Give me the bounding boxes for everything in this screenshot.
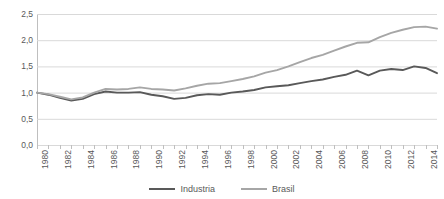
x-axis-tick	[94, 145, 95, 149]
series-canvas	[37, 14, 437, 145]
x-axis-tick-label: 1994	[201, 150, 210, 169]
legend-label: Industria	[180, 185, 215, 194]
legend-line-swatch	[241, 188, 267, 190]
y-axis-tick-label: 1,5	[3, 62, 33, 71]
x-axis-tick-label: 1982	[64, 150, 73, 169]
x-axis-tick	[48, 145, 49, 149]
x-axis-tick	[37, 145, 38, 149]
x-axis-tick	[83, 145, 84, 149]
x-axis-tick	[71, 145, 72, 149]
x-axis-tick-label: 2006	[338, 150, 347, 169]
x-axis-tick	[334, 145, 335, 149]
x-axis-tick	[346, 145, 347, 149]
y-axis-tick-label: 0,5	[3, 115, 33, 124]
x-axis-tick	[254, 145, 255, 149]
series-line-brasil	[37, 27, 437, 100]
x-axis-tick-label: 2014	[430, 150, 439, 169]
x-axis-tick	[243, 145, 244, 149]
x-axis-tick	[186, 145, 187, 149]
chart-title	[0, 0, 444, 2]
legend-item[interactable]: Brasil	[241, 185, 295, 194]
x-axis-tick	[277, 145, 278, 149]
x-axis-tick-label: 1992	[178, 150, 187, 169]
x-axis-tick	[311, 145, 312, 149]
x-axis-tick	[60, 145, 61, 149]
x-axis-tick-label: 2004	[315, 150, 324, 169]
x-axis-tick	[437, 145, 438, 149]
y-axis-tick-label: 2,0	[3, 36, 33, 45]
x-axis-tick-label: 2010	[384, 150, 393, 169]
x-axis-tick	[174, 145, 175, 149]
x-axis-tick-label: 2000	[270, 150, 279, 169]
x-axis-tick-label: 1986	[110, 150, 119, 169]
x-axis-tick	[140, 145, 141, 149]
line-chart: 2,52,01,51,00,50,0 198019821984198619881…	[0, 0, 444, 199]
x-axis-tick	[106, 145, 107, 149]
chart-legend: IndustriaBrasil	[0, 182, 444, 196]
x-axis-tick	[197, 145, 198, 149]
x-axis-tick-label: 1980	[41, 150, 50, 169]
x-axis-tick	[380, 145, 381, 149]
x-axis-tick	[414, 145, 415, 149]
x-axis-tick-label: 1996	[224, 150, 233, 169]
x-axis-tick	[117, 145, 118, 149]
x-axis-tick	[266, 145, 267, 149]
x-axis-tick	[231, 145, 232, 149]
x-axis-tick-label: 2012	[407, 150, 416, 169]
x-axis-tick	[151, 145, 152, 149]
x-axis-tick	[391, 145, 392, 149]
x-axis-tick-label: 1990	[155, 150, 164, 169]
legend-line-swatch	[149, 188, 175, 190]
y-axis-tick-label: 0,0	[3, 141, 33, 150]
x-axis-tick	[368, 145, 369, 149]
y-axis-labels: 2,52,01,51,00,50,0	[0, 0, 33, 199]
x-axis-tick	[426, 145, 427, 149]
x-axis-tick-label: 1984	[87, 150, 96, 169]
x-axis-tick	[163, 145, 164, 149]
x-axis-tick	[403, 145, 404, 149]
x-axis-tick	[323, 145, 324, 149]
y-axis-tick-label: 1,0	[3, 89, 33, 98]
plot-area	[37, 14, 437, 145]
y-axis-tick-label: 2,5	[3, 10, 33, 19]
x-axis-tick	[220, 145, 221, 149]
x-axis-tick-label: 2002	[292, 150, 301, 169]
x-axis-tick	[208, 145, 209, 149]
legend-item[interactable]: Industria	[149, 185, 215, 194]
x-axis-tick	[128, 145, 129, 149]
x-axis-tick	[288, 145, 289, 149]
x-axis-tick-label: 1998	[247, 150, 256, 169]
x-axis-tick-label: 1988	[132, 150, 141, 169]
x-axis-tick	[300, 145, 301, 149]
series-line-industria	[37, 66, 437, 100]
x-axis-tick-label: 2008	[361, 150, 370, 169]
legend-label: Brasil	[272, 185, 295, 194]
x-axis-tick	[357, 145, 358, 149]
data-series	[37, 27, 437, 101]
